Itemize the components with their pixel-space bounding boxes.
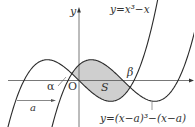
beta-label: β <box>126 66 133 79</box>
curve1-label: y=x³−x <box>109 3 150 15</box>
y-axis-label: y <box>69 5 77 18</box>
curve2-label: y=(x−a)³−(x−a) <box>99 112 186 124</box>
function-graph: y O α β S a y=x³−x y=(x−a)³−(x−a) <box>0 0 194 127</box>
region-s-label: S <box>101 81 109 94</box>
y-axis-arrow-icon <box>77 7 81 13</box>
origin-label: O <box>68 80 77 93</box>
shift-a-label: a <box>30 102 36 113</box>
alpha-leader-line <box>58 77 66 86</box>
alpha-label: α <box>47 80 55 93</box>
shift-arrow-head-icon <box>51 99 56 102</box>
curve-shifted <box>52 0 195 127</box>
x-axis-arrow-icon <box>189 79 194 83</box>
